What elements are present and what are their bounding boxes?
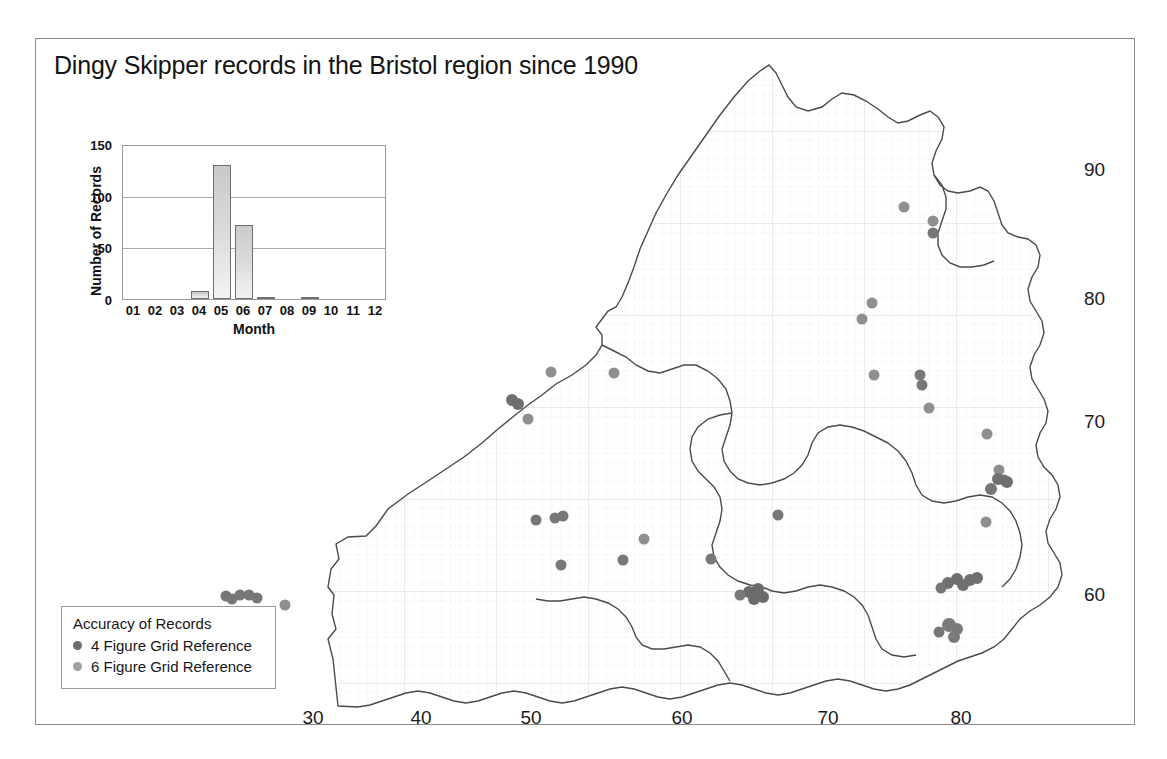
legend-dot-6-figure xyxy=(73,662,82,671)
map-xtick-4: 70 xyxy=(817,707,838,729)
bar-chart-ytick-0: 0 xyxy=(66,293,112,308)
bar-04 xyxy=(191,291,208,299)
gridline-100 xyxy=(123,197,385,198)
bar-06 xyxy=(235,225,252,299)
gridline-50 xyxy=(123,248,385,249)
bar-05 xyxy=(213,165,230,299)
map-ytick-1: 80 xyxy=(1084,288,1105,310)
bar-chart-ylabel: Number of Records xyxy=(88,151,104,311)
map-legend: Accuracy of Records 4 Figure Grid Refere… xyxy=(61,606,276,689)
figure-frame: Dingy Skipper records in the Bristol reg… xyxy=(35,38,1135,725)
legend-label-6-figure: 6 Figure Grid Reference xyxy=(91,658,252,675)
bar-chart-ytick-50: 50 xyxy=(66,241,112,256)
legend-item-4-figure: 4 Figure Grid Reference xyxy=(73,637,275,654)
bar-chart-ytick-150: 150 xyxy=(66,138,112,153)
map-xtick-1: 40 xyxy=(410,707,431,729)
bar-chart-xtick-06: 06 xyxy=(236,303,250,318)
map-xtick-3: 60 xyxy=(671,707,692,729)
bar-chart-xtick-04: 04 xyxy=(192,303,206,318)
bar-chart-xtick-08: 08 xyxy=(280,303,294,318)
legend-item-6-figure: 6 Figure Grid Reference xyxy=(73,658,275,675)
bar-chart-xtick-01: 01 xyxy=(126,303,140,318)
bar-chart-xtick-11: 11 xyxy=(346,303,360,318)
map-xtick-0: 30 xyxy=(302,707,323,729)
map-ytick-3: 60 xyxy=(1084,584,1105,606)
bar-chart-plot-area xyxy=(122,145,386,300)
bar-09 xyxy=(301,297,318,299)
map-ytick-2: 70 xyxy=(1084,411,1105,433)
bar-chart-xlabel: Month xyxy=(122,321,386,337)
legend-label-4-figure: 4 Figure Grid Reference xyxy=(91,637,252,654)
bar-chart-xtick-02: 02 xyxy=(148,303,162,318)
legend-dot-4-figure xyxy=(73,641,82,650)
bar-chart-xtick-05: 05 xyxy=(214,303,228,318)
legend-title: Accuracy of Records xyxy=(73,615,275,632)
map-xtick-5: 80 xyxy=(950,707,971,729)
monthly-records-bar-chart: Number of Records 050100150 010203040506… xyxy=(58,131,403,339)
map-xtick-2: 50 xyxy=(520,707,541,729)
bar-chart-xtick-09: 09 xyxy=(302,303,316,318)
bar-chart-ytick-100: 100 xyxy=(66,189,112,204)
bar-07 xyxy=(257,297,274,299)
bar-chart-xtick-12: 12 xyxy=(368,303,382,318)
bar-chart-xtick-10: 10 xyxy=(324,303,338,318)
bar-chart-xtick-07: 07 xyxy=(258,303,272,318)
bar-chart-xtick-03: 03 xyxy=(170,303,184,318)
map-ytick-0: 90 xyxy=(1084,159,1105,181)
